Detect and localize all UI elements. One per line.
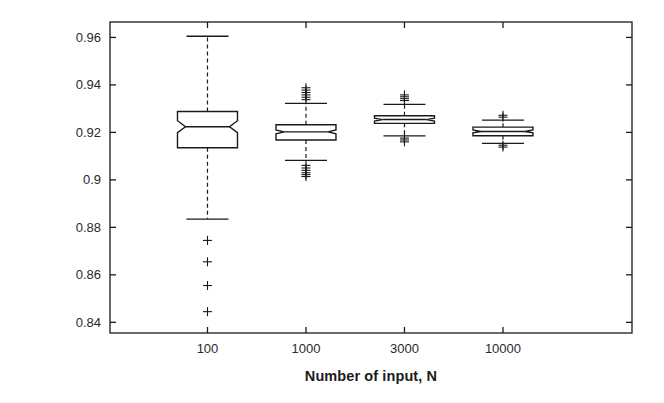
- outlier-marker: [203, 307, 212, 316]
- outlier-marker: [203, 281, 212, 290]
- y-tick-label: 0.92: [76, 125, 101, 140]
- outlier-marker: [400, 137, 409, 146]
- y-tick-label: 0.84: [76, 315, 101, 330]
- y-tick-label: 0.9: [83, 172, 101, 187]
- box-plot-group: [177, 36, 237, 316]
- figure-container: 0.960.940.920.90.880.860.84 100100030001…: [0, 0, 664, 403]
- outlier-marker: [301, 172, 310, 181]
- y-tick-label: 0.86: [76, 267, 101, 282]
- x-axis-label: Number of input, N: [110, 368, 632, 384]
- box-plot-group: [374, 90, 434, 146]
- x-tick-label: 1000: [292, 341, 321, 356]
- y-tick-label: 0.96: [76, 30, 101, 45]
- plot-frame: [110, 22, 632, 333]
- y-tick-label: 0.88: [76, 220, 101, 235]
- outlier-marker: [203, 257, 212, 266]
- box-plot-group: [473, 111, 533, 152]
- outlier-marker: [203, 236, 212, 245]
- y-axis-ticks: 0.960.940.920.90.880.860.84: [76, 30, 632, 330]
- boxplot-chart: 0.960.940.920.90.880.860.84 100100030001…: [0, 0, 664, 403]
- x-tick-label: 100: [197, 341, 219, 356]
- x-tick-label: 3000: [390, 341, 419, 356]
- x-axis-ticks: 1001000300010000: [197, 22, 521, 356]
- x-tick-label: 10000: [485, 341, 521, 356]
- box-plot-group: [276, 83, 336, 181]
- y-tick-label: 0.94: [76, 77, 101, 92]
- y-axis-label: Broadcast reliability: [10, 0, 66, 56]
- box-plot-series: [177, 36, 532, 316]
- axes-frame: [110, 22, 632, 333]
- box-body: [177, 112, 237, 148]
